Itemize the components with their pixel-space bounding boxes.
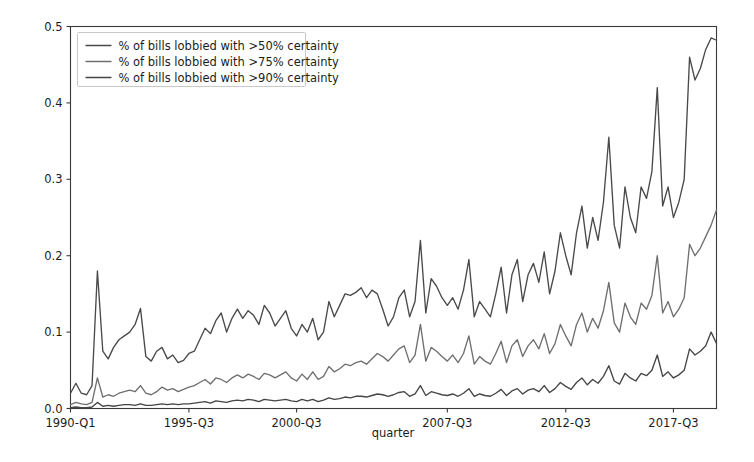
x-tick-label: 1990-Q1	[45, 416, 95, 430]
x-tick-label: 1995-Q3	[164, 416, 214, 430]
y-tick-label: 0.4	[44, 96, 62, 110]
line-chart: 0.00.10.20.30.40.5 1990-Q11995-Q32000-Q3…	[0, 0, 754, 462]
x-tick-label: 2007-Q3	[422, 416, 472, 430]
x-tick-label: 2000-Q3	[271, 416, 321, 430]
y-tick-label: 0.2	[44, 249, 62, 263]
x-tick-label: 2012-Q3	[541, 416, 591, 430]
legend-label-1: % of bills lobbied with >50% certainty	[119, 39, 339, 53]
y-tick-label: 0.5	[44, 20, 62, 34]
chart-legend: % of bills lobbied with >50% certainty% …	[78, 33, 339, 87]
y-tick-label: 0.0	[44, 402, 62, 416]
y-tick-label: 0.3	[44, 172, 62, 186]
chart-figure: 0.00.10.20.30.40.5 1990-Q11995-Q32000-Q3…	[0, 0, 754, 462]
legend-label-3: % of bills lobbied with >90% certainty	[119, 71, 339, 85]
x-tick-label: 2017-Q3	[648, 416, 698, 430]
x-axis-title: quarter	[372, 426, 415, 440]
legend-label-2: % of bills lobbied with >75% certainty	[119, 55, 339, 69]
y-tick-label: 0.1	[44, 325, 62, 339]
